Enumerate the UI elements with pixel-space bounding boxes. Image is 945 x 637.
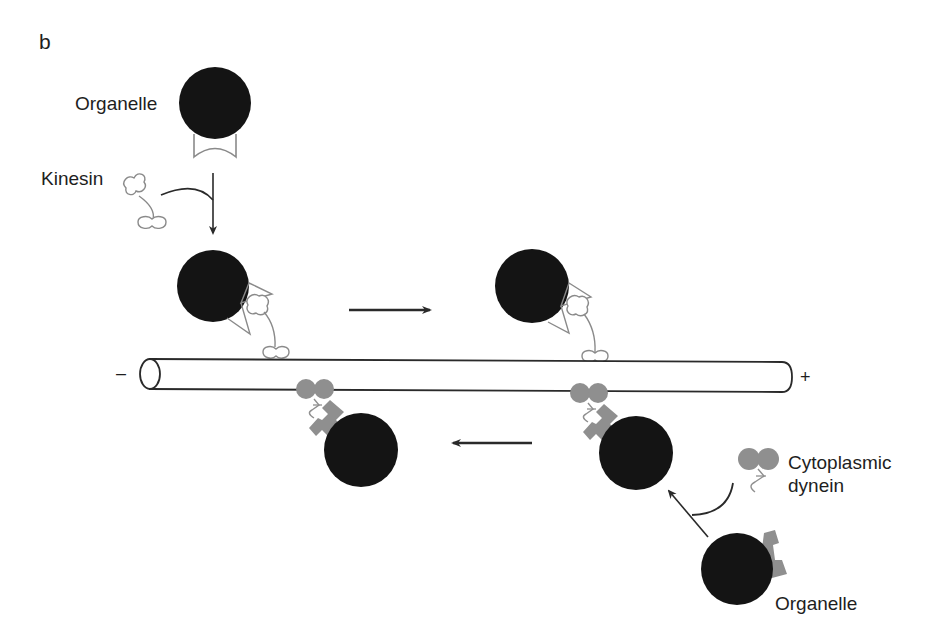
kinesin-free — [124, 174, 166, 228]
organelle-label-bottom: Organelle — [775, 593, 857, 615]
organelle-top — [179, 67, 251, 157]
kinesin-dynein-transport-diagram: b Organelle Kinesin – + Cytoplasmic dyne… — [0, 0, 945, 637]
panel-label: b — [39, 31, 51, 53]
binding-arrow-kinesin — [161, 173, 213, 233]
minus-end-label: – — [116, 362, 126, 384]
microtubule — [140, 359, 792, 392]
organelle-kinesin-bound-right — [495, 249, 608, 362]
kinesin-label: Kinesin — [41, 168, 103, 190]
dynein-label: dynein — [788, 475, 844, 497]
binding-arrow-dynein — [669, 483, 733, 537]
organelle-kinesin-bound-left — [177, 250, 289, 358]
cytoplasmic-label: Cytoplasmic — [788, 452, 891, 474]
organelle-dynein-bound-right — [570, 383, 673, 490]
plus-end-label: + — [800, 366, 811, 388]
cytoplasmic-dynein-free — [738, 448, 779, 492]
organelle-dynein-bound-left — [296, 379, 398, 487]
organelle-label-top: Organelle — [75, 93, 157, 115]
